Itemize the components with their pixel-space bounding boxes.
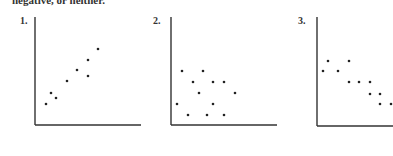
- data-point: [369, 93, 372, 96]
- data-point: [97, 48, 100, 51]
- data-point: [55, 97, 58, 100]
- data-point: [76, 69, 79, 72]
- data-point: [358, 81, 361, 84]
- data-point: [223, 114, 226, 117]
- data-point: [87, 75, 90, 78]
- data-point: [337, 70, 340, 73]
- data-point: [390, 103, 393, 106]
- data-point: [176, 103, 179, 106]
- data-point: [202, 70, 205, 73]
- data-point: [212, 103, 215, 106]
- data-point: [379, 103, 382, 106]
- data-point: [192, 81, 195, 84]
- data-point: [348, 81, 351, 84]
- data-point: [369, 81, 372, 84]
- scatter-plot-2: [171, 17, 277, 125]
- scatter-plot-3: [317, 17, 393, 126]
- data-point: [234, 92, 237, 95]
- data-point: [50, 92, 53, 95]
- data-point: [212, 81, 215, 84]
- data-point: [187, 114, 190, 117]
- scatter-plot-1: [35, 17, 141, 125]
- data-point: [66, 80, 69, 83]
- data-point: [206, 114, 209, 117]
- data-point: [45, 103, 48, 106]
- data-point: [322, 70, 325, 73]
- data-point: [181, 70, 184, 73]
- data-point: [198, 92, 201, 95]
- scatter-plots: [0, 0, 393, 156]
- data-point: [223, 81, 226, 84]
- data-point: [327, 60, 330, 63]
- data-point: [87, 59, 90, 62]
- data-point: [379, 93, 382, 96]
- data-point: [348, 60, 351, 63]
